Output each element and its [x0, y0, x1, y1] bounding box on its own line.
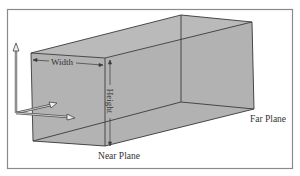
view-volume-diagram: Width Height Near Plane Far Plane — [0, 0, 300, 176]
height-label: Height — [105, 89, 115, 114]
far-plane-label: Far Plane — [250, 114, 286, 124]
near-plane-label: Near Plane — [98, 151, 140, 161]
width-label: Width — [51, 57, 74, 67]
